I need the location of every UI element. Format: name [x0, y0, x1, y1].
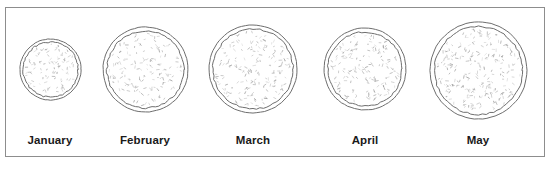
specimen-disc-january — [14, 33, 87, 106]
specimen-january — [14, 33, 87, 106]
specimen-row: JanuaryFebruaryMarchAprilMay — [0, 0, 552, 170]
specimen-disc-march — [203, 19, 303, 119]
specimen-label-may: May — [408, 134, 548, 146]
specimen-may — [424, 16, 533, 125]
specimen-disc-may — [424, 16, 533, 125]
specimen-april — [318, 22, 412, 116]
specimen-march — [203, 19, 303, 119]
specimen-disc-february — [97, 21, 194, 118]
figure-root: JanuaryFebruaryMarchAprilMay — [0, 0, 552, 170]
specimen-disc-april — [318, 22, 412, 116]
specimen-february — [97, 21, 194, 118]
